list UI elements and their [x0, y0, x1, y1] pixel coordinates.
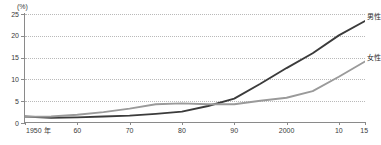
y-tick-label-20: 20 — [0, 32, 19, 39]
x-tick-label-1990: 90 — [230, 127, 238, 135]
y-tick-label-0: 0 — [0, 120, 19, 127]
x-tick-label-1970: 70 — [126, 127, 134, 135]
y-tick-label-15: 15 — [0, 54, 19, 61]
series-label-male: 男性 — [367, 13, 381, 21]
series-label-female: 女性 — [367, 54, 381, 62]
plot-area — [25, 14, 365, 123]
series-lines — [25, 14, 365, 123]
y-tick-label-10: 10 — [0, 76, 19, 83]
x-tick-label-1960: 60 — [73, 127, 81, 135]
x-tick-mark-2015 — [365, 122, 366, 125]
y-tick-label-25: 25 — [0, 11, 19, 18]
x-tick-label-2010: 10 — [335, 127, 343, 135]
x-tick-label-1980: 80 — [178, 127, 186, 135]
y-tick-label-5: 5 — [0, 98, 19, 105]
x-tick-label-2000: 2000 — [279, 127, 295, 135]
x-tick-label-1950: 1950 年 — [26, 127, 51, 135]
x-tick-label-2015: 15 — [360, 127, 368, 135]
